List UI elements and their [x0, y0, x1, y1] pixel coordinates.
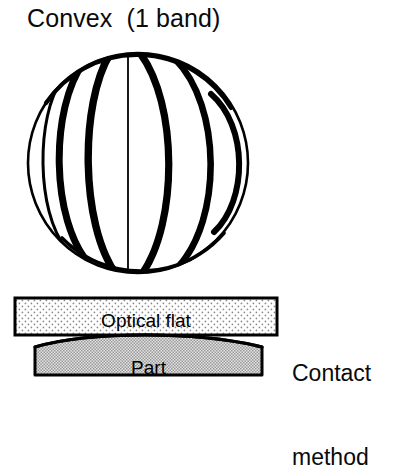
optical-flat-block [15, 298, 277, 335]
contact-method-caption-line1: Contact [292, 359, 371, 387]
interferogram [0, 0, 403, 300]
contact-method-caption-line2: method [292, 443, 371, 469]
contact-method-caption: Contact method [292, 303, 371, 469]
